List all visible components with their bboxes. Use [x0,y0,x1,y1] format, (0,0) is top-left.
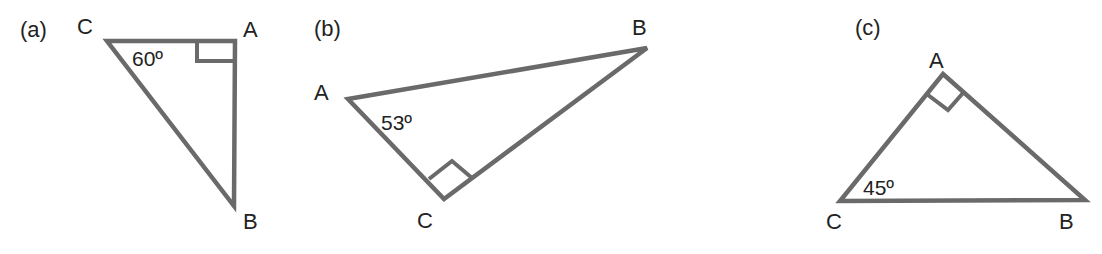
figure-a: (a) C A B 60º [20,14,258,234]
figure-c-tag: (c) [855,15,881,40]
figure-b-tag: (b) [314,16,341,41]
right-angle-marker [197,41,235,61]
triangles-diagram: (a) C A B 60º (b) B A C 53º (c) A C B 45… [0,0,1102,254]
vertex-c-label: C [417,208,433,233]
vertex-c-label: C [77,14,93,39]
vertex-a-label: A [929,48,944,73]
angle-label: 45º [863,176,894,199]
vertex-a-label: A [243,17,258,42]
figure-c: (c) A C B 45º [826,15,1085,234]
vertex-a-label: A [314,80,329,105]
figure-a-tag: (a) [20,17,47,42]
angle-label: 53º [381,111,412,134]
figure-b: (b) B A C 53º [314,15,647,233]
vertex-b-label: B [632,15,647,40]
angle-label: 60º [132,47,163,70]
vertex-b-label: B [243,209,258,234]
vertex-b-label: B [1059,209,1074,234]
triangle-a [107,41,235,206]
vertex-c-label: C [826,209,842,234]
right-angle-marker [429,161,472,179]
right-angle-marker [928,93,963,110]
